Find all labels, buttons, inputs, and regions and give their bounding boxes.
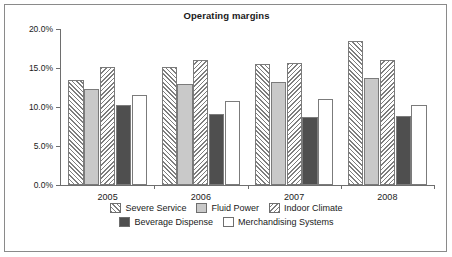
bar	[396, 116, 411, 185]
bar	[68, 80, 83, 185]
legend-item-label: Severe Service	[125, 203, 186, 213]
y-axis-tick-label: 10.0%	[29, 102, 53, 112]
bar	[380, 60, 395, 185]
legend-item-severe-service[interactable]: Severe Service	[110, 203, 186, 213]
chart-legend: Severe ServiceFluid PowerIndoor Climate …	[5, 203, 448, 231]
legend-item-fluid-power[interactable]: Fluid Power	[196, 203, 259, 213]
chart-title: Operating margins	[5, 10, 448, 21]
legend-item-label: Beverage Dispense	[134, 217, 213, 227]
legend-item-label: Indoor Climate	[284, 203, 343, 213]
bar	[302, 117, 317, 185]
bar	[225, 101, 240, 185]
bar	[271, 82, 286, 185]
plot-area: 0.0%5.0%10.0%15.0%20.0% 2005200620072008	[61, 29, 434, 185]
legend-row: Severe ServiceFluid PowerIndoor Climate	[5, 203, 448, 213]
legend-swatch-icon	[110, 203, 121, 213]
bar	[411, 105, 426, 185]
bar	[348, 41, 363, 185]
bar	[364, 78, 379, 185]
bar	[318, 99, 333, 185]
legend-item-label: Merchandising Systems	[238, 217, 334, 227]
bar-group	[341, 29, 434, 185]
x-axis-tick-label: 2008	[377, 192, 397, 202]
x-axis-tick	[248, 185, 249, 189]
bar	[84, 89, 99, 185]
x-axis-tick	[434, 185, 435, 189]
y-axis-tick-label: 15.0%	[29, 63, 53, 73]
bar	[177, 84, 192, 185]
legend-item-beverage-dispense[interactable]: Beverage Dispense	[119, 217, 213, 227]
x-axis-tick-label: 2005	[98, 192, 118, 202]
y-axis-tick	[56, 185, 61, 186]
legend-item-indoor-climate[interactable]: Indoor Climate	[269, 203, 343, 213]
bar-group	[154, 29, 247, 185]
bar	[255, 64, 270, 185]
x-axis-tick-label: 2007	[284, 192, 304, 202]
x-axis-tick	[341, 185, 342, 189]
x-axis-tick	[154, 185, 155, 189]
bar	[132, 95, 147, 185]
bar	[162, 67, 177, 185]
bar	[100, 67, 115, 185]
legend-row: Beverage DispenseMerchandising Systems	[5, 217, 448, 227]
legend-item-merchandising-systems[interactable]: Merchandising Systems	[223, 217, 334, 227]
y-axis-tick-label: 0.0%	[34, 180, 53, 190]
legend-swatch-icon	[196, 203, 207, 213]
legend-item-label: Fluid Power	[211, 203, 259, 213]
legend-swatch-icon	[223, 217, 234, 227]
bar-group	[61, 29, 154, 185]
bar-group	[248, 29, 341, 185]
bar	[287, 63, 302, 185]
bar	[116, 105, 131, 185]
x-axis-tick-label: 2006	[191, 192, 211, 202]
y-axis-tick-label: 20.0%	[29, 24, 53, 34]
bar	[193, 60, 208, 185]
chart-frame: Operating margins 0.0%5.0%10.0%15.0%20.0…	[4, 4, 447, 252]
y-axis-tick-label: 5.0%	[34, 141, 53, 151]
legend-swatch-icon	[269, 203, 280, 213]
bar	[209, 114, 224, 185]
legend-swatch-icon	[119, 217, 130, 227]
